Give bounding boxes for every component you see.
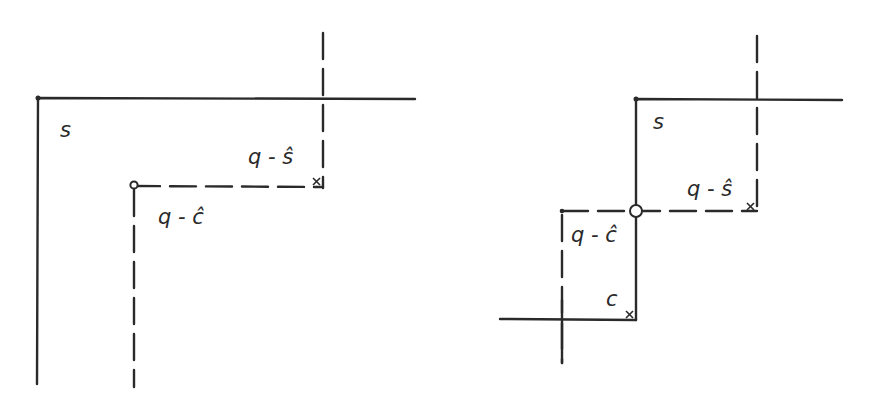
right-q-minus-c-hat-apex	[560, 209, 565, 214]
left-panel: s q - ŝ q - ĉ	[36, 33, 416, 387]
right-cone-s-apex	[634, 97, 639, 102]
right-label-s: s	[653, 110, 664, 134]
diagram-canvas: s q - ŝ q - ĉ s q - ŝ q - ĉ c	[0, 0, 875, 414]
left-label-s: s	[60, 118, 71, 142]
left-label-q-minus-s-hat: q - ŝ	[248, 145, 293, 169]
right-cone-c-horizontal	[500, 319, 636, 320]
right-panel: s q - ŝ q - ĉ c	[500, 36, 842, 363]
right-x-mark-upper-icon	[747, 203, 754, 210]
left-x-mark-icon	[313, 178, 320, 185]
right-label-c: c	[606, 287, 618, 311]
left-q-point-circle	[130, 181, 137, 188]
left-cone-s-boundary	[37, 98, 415, 384]
left-label-q-minus-c-hat: q - ĉ	[158, 205, 204, 229]
right-cone-s-boundary	[636, 99, 842, 320]
left-q-minus-c-hat-horizontal	[134, 186, 323, 187]
right-q-point-circle	[630, 205, 642, 217]
right-label-q-minus-c-hat: q - ĉ	[571, 223, 617, 247]
right-label-q-minus-s-hat: q - ŝ	[687, 177, 732, 201]
left-cone-s-apex	[36, 96, 41, 101]
right-x-mark-lower-icon	[626, 311, 633, 318]
